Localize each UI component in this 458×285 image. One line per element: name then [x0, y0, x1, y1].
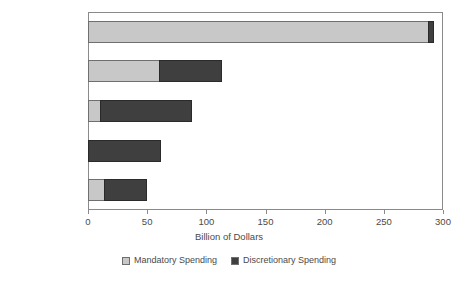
legend-swatch-icon	[122, 257, 130, 265]
x-tick-label: 250	[376, 216, 392, 227]
bar-row: Transportation	[88, 131, 443, 171]
x-tick-mark	[384, 210, 385, 214]
bar-segment-discretionary-spending[interactable]	[100, 100, 192, 122]
x-tick-label: 300	[435, 216, 451, 227]
legend-label: Discretionary Spending	[243, 256, 336, 265]
plot-area: HealthIncome SecurityEducationTransporta…	[88, 12, 443, 210]
stacked-bar[interactable]	[88, 60, 223, 82]
legend-item[interactable]: Discretionary Spending	[231, 256, 336, 265]
stacked-bar-chart: HealthIncome SecurityEducationTransporta…	[0, 0, 458, 285]
bar-segment-discretionary-spending[interactable]	[159, 60, 222, 82]
legend-swatch-icon	[231, 257, 239, 265]
bar-segment-discretionary-spending[interactable]	[428, 21, 434, 43]
bar-segment-mandatory-spending[interactable]	[88, 179, 105, 201]
bar-row: Education	[88, 91, 443, 131]
x-tick-label: 0	[85, 216, 90, 227]
stacked-bar[interactable]	[88, 179, 148, 201]
bar-row: Other	[88, 170, 443, 210]
x-tick-mark	[147, 210, 148, 214]
bar-segment-mandatory-spending[interactable]	[88, 60, 160, 82]
x-tick-mark	[266, 210, 267, 214]
chart-legend: Mandatory SpendingDiscretionary Spending	[0, 256, 458, 265]
x-tick-label: 50	[142, 216, 153, 227]
x-tick-mark	[443, 210, 444, 214]
bar-segment-mandatory-spending[interactable]	[88, 21, 429, 43]
x-axis-title: Billion of Dollars	[0, 231, 458, 242]
legend-label: Mandatory Spending	[134, 256, 217, 265]
bar-row: Income Security	[88, 52, 443, 92]
stacked-bar[interactable]	[88, 140, 161, 162]
x-tick-label: 200	[317, 216, 333, 227]
x-tick-label: 100	[198, 216, 214, 227]
legend-item[interactable]: Mandatory Spending	[122, 256, 217, 265]
x-tick-mark	[206, 210, 207, 214]
x-tick-label: 150	[258, 216, 274, 227]
x-tick-mark	[88, 210, 89, 214]
stacked-bar[interactable]	[88, 21, 435, 43]
x-tick-mark	[325, 210, 326, 214]
bar-row: Health	[88, 12, 443, 52]
bar-segment-discretionary-spending[interactable]	[104, 179, 148, 201]
stacked-bar[interactable]	[88, 100, 193, 122]
bar-segment-discretionary-spending[interactable]	[88, 140, 161, 162]
